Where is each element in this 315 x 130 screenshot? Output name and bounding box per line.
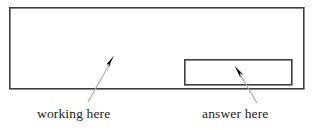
diagram-screenshot: working here answer here: [0, 0, 315, 130]
answer-here-label: answer here: [202, 106, 269, 122]
working-here-label: working here: [37, 106, 110, 122]
